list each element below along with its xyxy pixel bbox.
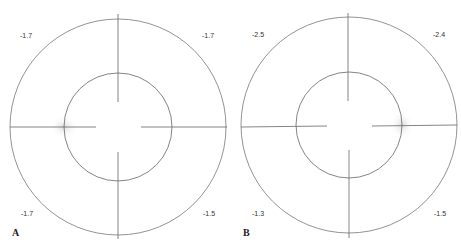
panel-label-b: B bbox=[243, 227, 250, 238]
value-bottom-right: -1.5 bbox=[434, 210, 446, 217]
figure-canvas: -1.7 -1.7 -1.7 -1.5 A -2.5 -2.4 -1.3 -1.… bbox=[0, 0, 461, 247]
value-top-left: -2.5 bbox=[252, 31, 264, 38]
value-bottom-right: -1.5 bbox=[203, 210, 215, 217]
value-top-right: -1.7 bbox=[202, 32, 214, 39]
panel-a: -1.7 -1.7 -1.7 -1.5 A bbox=[10, 14, 227, 239]
value-top-left: -1.7 bbox=[20, 32, 32, 39]
value-bottom-left: -1.7 bbox=[21, 210, 33, 217]
crosshair-right bbox=[372, 125, 457, 126]
panel-b: -2.5 -2.4 -1.3 -1.5 B bbox=[241, 13, 457, 238]
crosshair-left bbox=[241, 126, 327, 127]
panel-label-a: A bbox=[12, 227, 20, 238]
value-top-right: -2.4 bbox=[433, 31, 445, 38]
value-bottom-left: -1.3 bbox=[252, 210, 264, 217]
